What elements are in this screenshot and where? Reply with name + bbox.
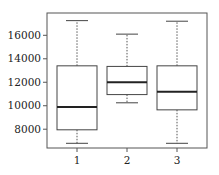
boxes	[57, 21, 197, 144]
iqr-box	[57, 66, 97, 130]
box-plot: 800010000120001400016000 123	[0, 0, 219, 175]
x-tick-label: 3	[174, 154, 181, 166]
y-tick-label: 10000	[8, 99, 41, 111]
y-axis: 800010000120001400016000	[8, 29, 47, 135]
y-tick-label: 16000	[8, 29, 41, 41]
x-axis: 123	[74, 148, 181, 166]
iqr-box	[157, 66, 197, 110]
box-1	[57, 21, 97, 144]
box-3	[157, 21, 197, 143]
iqr-box	[107, 66, 147, 94]
box-2	[107, 34, 147, 103]
y-tick-label: 8000	[14, 123, 41, 135]
x-tick-label: 2	[124, 154, 131, 166]
y-tick-label: 12000	[8, 76, 41, 88]
y-tick-label: 14000	[8, 52, 41, 64]
x-tick-label: 1	[74, 154, 81, 166]
